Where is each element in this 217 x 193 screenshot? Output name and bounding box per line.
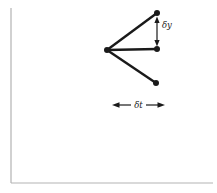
dt-arrowhead-left	[112, 102, 120, 108]
figure: δy δt	[0, 0, 217, 193]
secant-line-lower	[107, 50, 156, 83]
dy-arrowhead-down	[154, 40, 159, 47]
chord-line-middle	[107, 49, 157, 50]
dy-arrowhead-up	[154, 17, 159, 24]
data-point-lower	[153, 80, 159, 86]
data-point-vertex	[104, 47, 110, 53]
data-point-upper	[154, 10, 160, 16]
dy-label: δy	[162, 20, 172, 30]
dt-label: δt	[134, 100, 143, 110]
secant-line-upper	[107, 13, 157, 50]
dt-arrowhead-right	[158, 102, 166, 108]
data-point-middle	[154, 46, 160, 52]
derivative-increment-diagram: δy δt	[0, 0, 217, 193]
